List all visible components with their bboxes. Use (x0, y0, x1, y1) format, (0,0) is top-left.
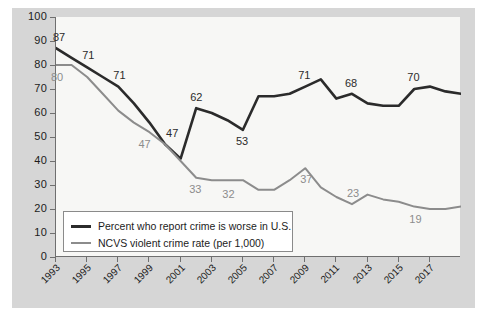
y-tick-mark (50, 233, 55, 234)
legend-label-percent-worse: Percent who report crime is worse in U.S… (98, 220, 291, 232)
y-tick-mark (50, 161, 55, 162)
x-tick-mark (148, 257, 149, 262)
data-point-label: 53 (236, 135, 248, 147)
data-point-label: 23 (347, 187, 359, 199)
data-point-label: 68 (345, 77, 357, 89)
data-point-label: 32 (222, 188, 234, 200)
x-tick-mark (429, 257, 430, 262)
data-point-label: 19 (409, 213, 421, 225)
y-tick-label: 20 (13, 202, 47, 214)
x-tick-mark (273, 257, 274, 262)
data-point-label: 71 (298, 69, 310, 81)
chart-figure: 0102030405060708090100 19931995199719992… (0, 0, 487, 319)
data-point-label: 37 (300, 173, 312, 185)
x-tick-mark (398, 257, 399, 262)
data-point-label: 71 (82, 49, 94, 61)
y-tick-mark (50, 137, 55, 138)
x-tick-mark (86, 257, 87, 262)
chart-legend: Percent who report crime is worse in U.S… (63, 211, 293, 252)
y-tick-label: 10 (13, 226, 47, 238)
data-point-label: 47 (138, 138, 150, 150)
y-tick-mark (50, 113, 55, 114)
data-point-label: 33 (189, 183, 201, 195)
y-tick-label: 0 (13, 250, 47, 262)
y-tick-label: 80 (13, 58, 47, 70)
data-point-label: 47 (166, 127, 178, 139)
legend-item-percent-worse: Percent who report crime is worse in U.S… (71, 219, 291, 233)
y-tick-label: 40 (13, 154, 47, 166)
x-tick-mark (367, 257, 368, 262)
y-tick-mark (50, 65, 55, 66)
x-tick-mark (55, 257, 56, 262)
y-tick-mark (50, 185, 55, 186)
data-point-label: 70 (407, 71, 419, 83)
legend-line-icon-gray (71, 242, 91, 244)
x-tick-mark (180, 257, 181, 262)
legend-label-ncvs-rate: NCVS violent crime rate (per 1,000) (98, 237, 264, 249)
y-tick-label: 60 (13, 106, 47, 118)
y-tick-label: 90 (13, 34, 47, 46)
legend-item-ncvs-rate: NCVS violent crime rate (per 1,000) (71, 236, 264, 250)
y-tick-label: 70 (13, 82, 47, 94)
y-tick-mark (50, 209, 55, 210)
series-line-percent-worse (56, 48, 461, 158)
legend-line-icon-dark (71, 225, 91, 228)
data-point-label: 87 (53, 31, 65, 43)
x-tick-mark (335, 257, 336, 262)
y-tick-mark (50, 89, 55, 90)
data-point-label: 71 (113, 69, 125, 81)
y-tick-label: 50 (13, 130, 47, 142)
x-tick-mark (304, 257, 305, 262)
y-tick-label: 100 (13, 10, 47, 22)
x-tick-mark (211, 257, 212, 262)
x-tick-mark (117, 257, 118, 262)
x-tick-mark (242, 257, 243, 262)
data-point-label: 80 (51, 71, 63, 83)
y-tick-mark (50, 17, 55, 18)
y-tick-label: 30 (13, 178, 47, 190)
data-point-label: 62 (190, 91, 202, 103)
